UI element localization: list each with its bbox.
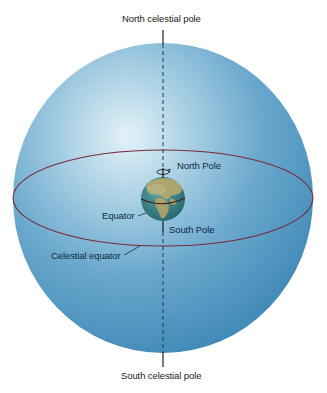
south-pole-label: South Pole [169, 224, 214, 235]
earth-globe [141, 177, 185, 221]
south-celestial-pole-label: South celestial pole [121, 370, 201, 381]
celestial-sphere-diagram [0, 0, 327, 393]
equator-label: Equator [102, 210, 135, 221]
north-pole-label: North Pole [177, 160, 221, 171]
north-celestial-pole-label: North celestial pole [122, 13, 201, 24]
celestial-equator-label: Celestial equator [51, 250, 121, 261]
